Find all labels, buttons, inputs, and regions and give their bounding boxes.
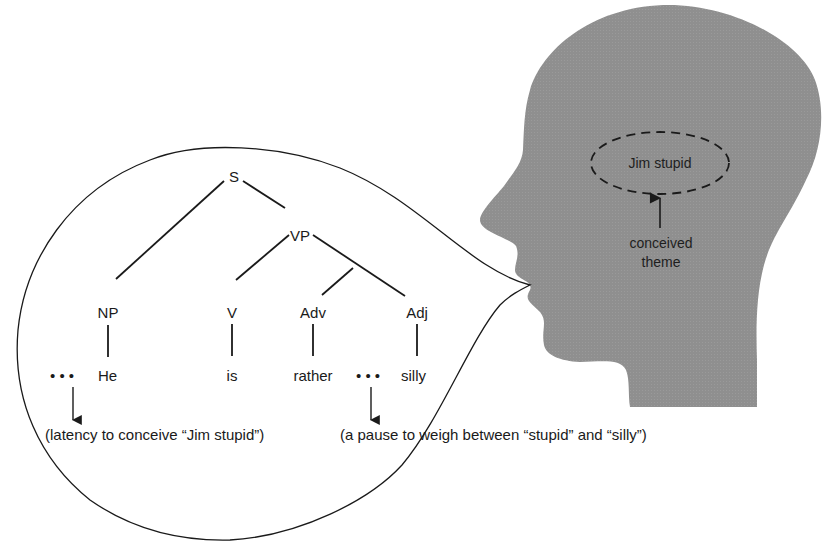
utterance-planning-diagram: Jim stupid conceived theme S VP NP V Adv…: [0, 0, 837, 544]
node-vp: VP: [290, 227, 310, 244]
word-is: is: [227, 367, 238, 384]
edge-s-np: [116, 181, 224, 279]
edge-junction-adv: [322, 268, 353, 295]
pause-marker-2: • • •: [356, 367, 380, 384]
edge-s-vp: [243, 181, 285, 208]
word-he: He: [98, 367, 117, 384]
pause-note: (a pause to weigh between “stupid” and “…: [340, 426, 647, 443]
node-adj: Adj: [406, 304, 428, 321]
word-silly: silly: [401, 367, 426, 384]
node-v: V: [227, 304, 237, 321]
edge-vp-adj: [313, 235, 405, 296]
speech-bubble: [17, 148, 530, 541]
node-np: NP: [98, 304, 119, 321]
latency-note: (latency to conceive “Jim stupid”): [45, 426, 264, 443]
node-s: S: [229, 168, 239, 185]
node-adv: Adv: [300, 304, 326, 321]
thought-text: Jim stupid: [628, 155, 691, 171]
edge-vp-v: [236, 235, 289, 280]
theme-label: theme: [642, 254, 681, 270]
head-silhouette: [480, 5, 821, 407]
word-rather: rather: [293, 367, 332, 384]
pause-marker-1: • • •: [50, 367, 74, 384]
syntax-tree-edges: [108, 181, 417, 357]
conceived-label: conceived: [629, 235, 692, 251]
